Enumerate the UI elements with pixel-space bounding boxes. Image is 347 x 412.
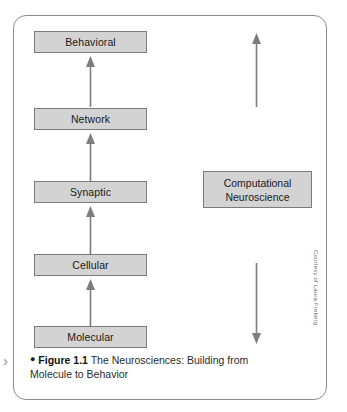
arrow-cellular-to-synaptic xyxy=(84,206,97,254)
level-box-label: Behavioral xyxy=(65,37,116,48)
credit-text: Courtesy of Laura Freberg xyxy=(313,250,319,325)
level-box-cellular: Cellular xyxy=(34,254,147,276)
caption-figure-number: Figure 1.1 xyxy=(38,354,88,366)
credit-line: Courtesy of Laura Freberg xyxy=(313,250,319,360)
level-box-label: Cellular xyxy=(72,260,108,271)
level-box-synaptic: Synaptic xyxy=(34,181,147,203)
level-box-label: Molecular xyxy=(67,332,113,343)
computational-box-line2: Neuroscience xyxy=(225,190,289,204)
level-box-label: Synaptic xyxy=(70,187,111,198)
figure-caption: ● Figure 1.1 The Neurosciences: Building… xyxy=(30,352,280,382)
level-box-label: Network xyxy=(71,114,110,125)
arrow-side-up xyxy=(250,33,263,107)
arrow-synaptic-to-network xyxy=(84,133,97,181)
arrow-side-down xyxy=(250,263,263,344)
computational-neuroscience-box: Computational Neuroscience xyxy=(203,171,312,208)
arrow-molecular-to-cellular xyxy=(84,279,97,327)
caption-bullet-icon: ● xyxy=(30,354,35,364)
arrow-network-to-behavioral xyxy=(84,56,97,107)
figure-panel: Behavioral Network Synaptic Cellular xyxy=(13,15,327,400)
level-box-network: Network xyxy=(34,108,147,130)
caption-marker-icon: › xyxy=(3,351,25,371)
level-box-behavioral: Behavioral xyxy=(34,31,147,53)
level-box-molecular: Molecular xyxy=(34,326,147,348)
computational-box-line1: Computational xyxy=(224,176,292,190)
caption-marker-glyph: › xyxy=(3,352,8,369)
